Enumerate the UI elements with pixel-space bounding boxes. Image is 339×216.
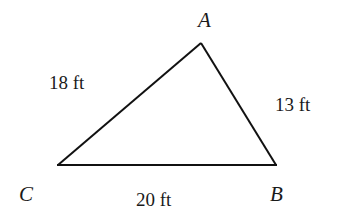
triangle xyxy=(57,43,277,165)
vertex-label-a: A xyxy=(196,8,211,32)
side-ca xyxy=(58,43,201,165)
vertex-label-c: C xyxy=(19,182,34,206)
vertex-label-b: B xyxy=(270,182,283,206)
side-label-ab: 13 ft xyxy=(275,94,311,115)
triangle-diagram: A C B 18 ft 13 ft 20 ft xyxy=(0,0,339,216)
side-label-ca: 18 ft xyxy=(49,72,85,93)
side-label-cb: 20 ft xyxy=(136,189,172,210)
side-ab xyxy=(201,43,276,165)
